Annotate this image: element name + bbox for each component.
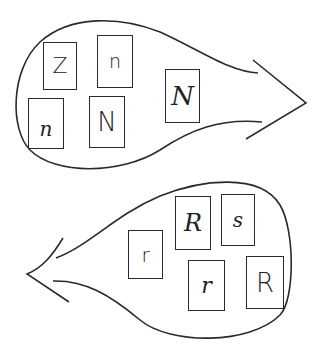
card-upper-n-print[interactable]: n	[97, 35, 133, 88]
card-upper-n-script[interactable]: n	[28, 98, 64, 149]
card-letter: N	[97, 109, 116, 135]
right-arrowhead-icon	[246, 60, 306, 139]
card-letter: N	[171, 83, 194, 109]
card-upper-Z[interactable]: Z	[43, 42, 77, 90]
card-letter: r	[141, 245, 149, 265]
card-lower-s-script[interactable]: s	[221, 194, 255, 246]
card-letter: Z	[52, 55, 67, 77]
card-letter: n	[40, 119, 53, 139]
card-letter: s	[233, 210, 243, 230]
card-letter: n	[109, 52, 121, 71]
card-lower-r-print[interactable]: r	[128, 230, 163, 279]
card-letter: R	[184, 211, 202, 235]
card-letter: R	[256, 270, 274, 296]
card-upper-N-print[interactable]: N	[89, 96, 125, 148]
card-lower-r-script[interactable]: r	[188, 260, 225, 311]
card-lower-R-print[interactable]: R	[246, 256, 284, 309]
card-upper-N-script[interactable]: N	[165, 69, 200, 123]
left-arrowhead-icon	[27, 238, 69, 302]
card-lower-R-script[interactable]: R	[175, 196, 211, 250]
card-letter: r	[201, 275, 212, 297]
